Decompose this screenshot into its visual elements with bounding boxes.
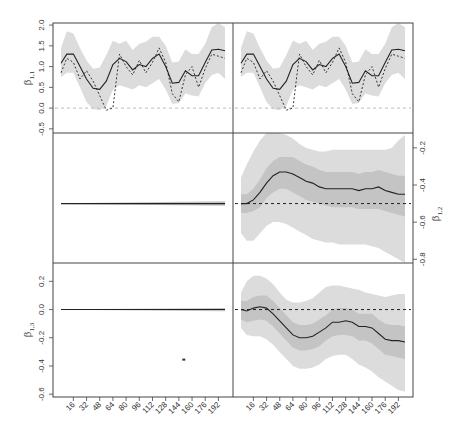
- y-axis-subscript: 1,1: [28, 70, 36, 79]
- y-tick-label: 0.2: [37, 275, 46, 287]
- x-tick-label: 192: [386, 400, 402, 416]
- x-tick-label: 192: [206, 400, 222, 416]
- y-tick-label: 0.0: [37, 303, 46, 315]
- y-tick-label: -0.6: [418, 215, 427, 229]
- y-axis-title: β1,1: [21, 70, 36, 85]
- y-tick-label: 1.0: [37, 60, 46, 72]
- y-tick-label: -0.4: [418, 178, 427, 192]
- x-tick-label: 16: [244, 400, 257, 413]
- chart-figure: -0.50.00.51.01.52.0β1,1-0.8-0.6-0.4-0.2β…: [0, 0, 464, 429]
- y-tick-label: -0.8: [418, 252, 427, 266]
- y-tick-label: 0.0: [37, 102, 46, 114]
- y-tick-label: 2.0: [37, 19, 46, 31]
- x-tick-label: 32: [257, 400, 270, 413]
- x-tick-label: 32: [77, 400, 90, 413]
- y-axis-subscript: 1,2: [436, 206, 444, 215]
- y-axis-title: β1,2: [429, 206, 444, 221]
- y-tick-label: -0.2: [418, 140, 427, 154]
- x-tick-label: 16: [64, 400, 77, 413]
- x-tick-label: 48: [270, 400, 283, 413]
- y-axis-subscript: 1,3: [28, 322, 36, 331]
- y-tick-label: 0.5: [37, 81, 46, 93]
- stray-mark: [182, 359, 185, 361]
- y-tick-label: 1.5: [37, 40, 46, 52]
- y-tick-label: -0.4: [37, 359, 46, 373]
- y-axis-title: β1,3: [21, 322, 36, 337]
- y-tick-label: -0.2: [37, 330, 46, 344]
- y-tick-label: -0.5: [37, 121, 46, 135]
- y-tick-label: -0.6: [37, 387, 46, 401]
- x-tick-label: 80: [117, 400, 130, 413]
- x-tick-label: 64: [104, 400, 117, 413]
- x-tick-label: 64: [284, 400, 297, 413]
- x-tick-label: 80: [297, 400, 310, 413]
- x-tick-label: 48: [90, 400, 103, 413]
